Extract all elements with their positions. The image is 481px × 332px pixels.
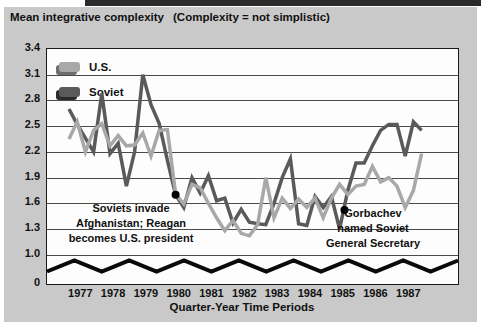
chart-subtitle: (Complexity = not simplistic) (173, 11, 330, 23)
y-tick-label: 1.3 (6, 221, 40, 233)
y-tick-label: 3.4 (6, 41, 40, 53)
x-year-label: 1979 (129, 287, 163, 299)
x-year-label: 1977 (63, 287, 97, 299)
y-tick-label: 2.2 (6, 144, 40, 156)
page-edge-strip (85, 0, 481, 6)
y-tick-label: 2.8 (6, 92, 40, 104)
x-year-label: 1981 (195, 287, 229, 299)
y-tick-label: 1.6 (6, 195, 40, 207)
event-marker-dot (172, 191, 180, 199)
annotation-line: becomes U.S. president (69, 232, 194, 244)
x-year-label: 1987 (391, 287, 425, 299)
y-tick-label: 1.0 (6, 247, 40, 259)
y-tick-label: 3.1 (6, 67, 40, 79)
x-year-label: 1982 (227, 287, 261, 299)
x-year-label: 1985 (326, 287, 360, 299)
chart-title: Mean integrative complexity (10, 11, 164, 23)
annotation-line: Soviets invade (92, 202, 169, 214)
annotation-line: named Soviet (337, 222, 409, 234)
x-year-label: 1980 (162, 287, 196, 299)
y-tick-label: 2.5 (6, 118, 40, 130)
x-year-label: 1984 (293, 287, 327, 299)
x-year-label: 1986 (359, 287, 393, 299)
y-tick-label: 1.9 (6, 170, 40, 182)
axis-break-zigzag (47, 261, 458, 272)
x-year-label: 1983 (260, 287, 294, 299)
annotation-afghanistan-reagan: Soviets invade Afghanistan; Reagan becom… (46, 201, 216, 246)
x-axis-title: Quarter-Year Time Periods (132, 301, 352, 313)
annotation-line: Gorbachev (344, 207, 401, 219)
y-tick-label: 0 (6, 276, 40, 288)
annotation-line: General Secretary (326, 237, 420, 249)
figure: Mean integrative complexity (Complexity … (0, 0, 481, 332)
x-year-label: 1978 (96, 287, 130, 299)
annotation-gorbachev: Gorbachev named Soviet General Secretary (293, 206, 453, 251)
annotation-line: Afghanistan; Reagan (76, 217, 186, 229)
